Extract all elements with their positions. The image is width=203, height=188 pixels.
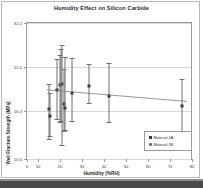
error-bar-cap <box>54 119 59 120</box>
error-bar-cap <box>62 130 67 131</box>
error-bar-cap <box>86 64 91 65</box>
x-axis-title: Humidity (%RH) <box>0 171 203 176</box>
legend-item-material-1b[interactable]: Material 1B <box>147 141 189 148</box>
x-tick-4 <box>104 159 105 162</box>
error-bar-cap <box>70 121 75 122</box>
error-bar-cap <box>59 121 64 122</box>
error-bar-cap <box>61 131 66 132</box>
x-tick-label-2: 20 <box>58 164 63 169</box>
error-bar-cap <box>47 84 52 85</box>
x-tick-1 <box>38 159 39 162</box>
x-tick-7 <box>170 159 171 162</box>
data-point-marker <box>63 106 66 109</box>
x-tick-2 <box>60 159 61 162</box>
error-bar-cap <box>62 57 67 58</box>
x-tick-label-4: 40 <box>102 164 107 169</box>
error-bar <box>64 57 65 130</box>
x-tick-5 <box>126 159 127 162</box>
data-point-marker <box>107 95 110 98</box>
y-axis-title-wrap: Weil Fracture Strength (MPa) <box>8 150 9 151</box>
y-tick-label-2: 16.3 <box>14 109 22 114</box>
data-point-marker <box>55 89 58 92</box>
figure-container: Humidity Effect on Silicon Carbide 32.2 … <box>0 0 203 188</box>
error-bar <box>88 64 89 103</box>
data-point-marker <box>60 83 63 86</box>
error-bar-cap <box>48 93 53 94</box>
x-tick-label-0: 5 <box>26 164 28 169</box>
gridline-y-3 <box>27 159 191 160</box>
error-bar-cap <box>59 49 64 50</box>
legend-square-marker-icon <box>149 136 152 139</box>
error-bar-cap <box>86 103 91 104</box>
y-tick-label-0: 32.2 <box>14 21 22 26</box>
legend-circle-marker-icon <box>149 143 152 146</box>
chart-title: Humidity Effect on Silicon Carbide <box>0 5 203 11</box>
y-tick-label-3: 10.0 <box>14 157 22 162</box>
x-tick-label-7: 70 <box>168 164 173 169</box>
x-tick-3 <box>82 159 83 162</box>
legend[interactable]: Material 1A Material 1B <box>144 131 192 151</box>
error-bar-cap <box>179 79 184 80</box>
error-bar-cap <box>47 139 52 140</box>
data-point-marker <box>180 105 183 108</box>
x-tick-label-5: 50 <box>124 164 129 169</box>
x-tick-label-8: 80 <box>190 164 195 169</box>
legend-label-material-1a: Material 1A <box>154 135 174 140</box>
data-point-marker <box>71 91 74 94</box>
error-bar <box>72 58 73 121</box>
x-tick-8 <box>192 159 193 162</box>
error-bar-cap <box>54 59 59 60</box>
x-tick-label-1: 10 <box>36 164 41 169</box>
error-bar-cap <box>106 122 111 123</box>
data-point-marker <box>49 115 52 118</box>
y-tick-label-1: 22.0 <box>14 65 22 70</box>
bottom-dark-band <box>0 181 203 188</box>
error-bar-cap <box>60 45 65 46</box>
x-tick-6 <box>148 159 149 162</box>
error-bar-cap <box>60 145 65 146</box>
error-bar-cap <box>106 63 111 64</box>
x-tick-label-6: 60 <box>146 164 151 169</box>
data-point-marker <box>87 85 90 88</box>
x-tick-label-3: 30 <box>80 164 85 169</box>
x-tick-0 <box>27 159 28 162</box>
legend-label-material-1b: Material 1B <box>154 142 174 147</box>
error-bar <box>108 63 109 123</box>
error-bar-cap <box>48 136 53 137</box>
error-bar-cap <box>70 58 75 59</box>
legend-item-material-1a[interactable]: Material 1A <box>147 134 189 141</box>
